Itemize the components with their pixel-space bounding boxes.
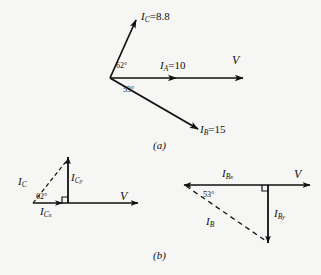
label-v-panel-b-right: V: [294, 168, 301, 180]
resultant-ib-dashed: [186, 186, 266, 241]
label-iby-component: IBy: [274, 208, 285, 221]
angle-label-53-panel-a: 53°: [123, 86, 134, 94]
label-v-panel-b-left: V: [120, 190, 127, 202]
label-ib-magnitude: IB=15: [200, 124, 225, 137]
label-icx-component: ICx: [40, 206, 52, 219]
label-ia-magnitude: IA=10: [160, 60, 185, 73]
angle-label-53-panel-b: 53°: [203, 191, 214, 199]
label-v-panel-a: V: [232, 54, 239, 66]
label-icy-component: ICy: [71, 172, 83, 185]
panel-a-group: [110, 20, 243, 129]
phasor-diagram-figure: [0, 0, 321, 275]
label-ic-resultant: IC: [18, 176, 27, 189]
label-ic-magnitude: IC=8.8: [141, 11, 170, 24]
caption-panel-a: (a): [153, 140, 166, 151]
angle-label-62-panel-b: 62°: [36, 193, 47, 201]
caption-panel-b: (b): [153, 250, 166, 261]
angle-label-62-panel-a: 62°: [116, 62, 127, 70]
label-ibx-component: IBx: [222, 168, 233, 181]
label-ib-resultant: IB: [206, 216, 214, 229]
